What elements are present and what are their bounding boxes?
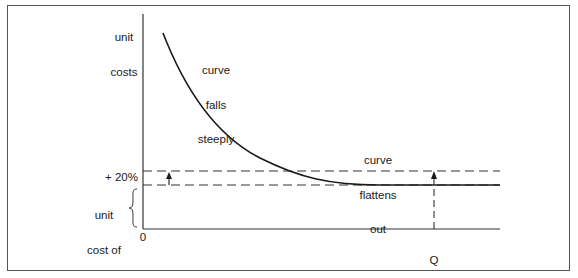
y-axis-label: unit costs — [102, 9, 146, 90]
steep-annotation: curve falls steeply — [188, 42, 244, 157]
origin-label: 0 — [136, 232, 150, 244]
annotation-line: out — [348, 224, 408, 236]
q-label: Q — [414, 255, 454, 267]
unit-cost-label-line: unit — [74, 210, 134, 222]
annotation-line: curve — [188, 65, 244, 77]
unit-cost-label: unit cost of producing OQ — [74, 187, 134, 278]
q-arrow-icon — [431, 171, 437, 179]
unit-cost-label-line: cost of — [74, 245, 134, 257]
percent-label: + 20% — [96, 172, 138, 184]
annotation-line: falls — [188, 100, 244, 112]
y-axis-label-line: unit — [102, 32, 146, 44]
annotation-line: flattens — [348, 190, 408, 202]
target-output-label: Q target output — [414, 232, 454, 278]
flat-annotation: curve flattens out — [348, 132, 408, 247]
percent-arrow-icon — [166, 172, 172, 179]
y-axis-label-line: costs — [102, 67, 146, 79]
annotation-line: curve — [348, 155, 408, 167]
annotation-line: steeply — [188, 134, 244, 146]
